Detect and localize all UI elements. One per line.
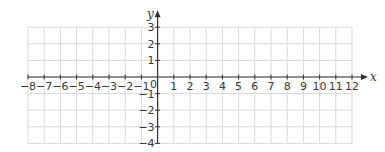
y-tick-label: −2 (138, 104, 154, 117)
x-tick-label: 9 (300, 80, 307, 93)
x-tick-label: 4 (219, 80, 226, 93)
x-axis-label: x (370, 70, 377, 84)
x-tick-label: 2 (187, 80, 194, 93)
x-tick-label: 1 (170, 80, 177, 93)
y-tick-label: 3 (148, 21, 155, 34)
x-tick-label: 5 (235, 80, 242, 93)
x-tick-label: −3 (101, 80, 117, 93)
x-tick-label: 8 (284, 80, 291, 93)
y-tick-label: −3 (138, 121, 154, 134)
x-tick-label: 6 (251, 80, 258, 93)
x-tick-label: −7 (36, 80, 52, 93)
y-tick-label: −4 (138, 137, 154, 150)
x-tick-label: −5 (68, 80, 84, 93)
x-tick-label: 7 (268, 80, 275, 93)
x-tick-label: −8 (20, 80, 36, 93)
x-tick-label: −2 (117, 80, 133, 93)
x-tick-label: 11 (329, 80, 343, 93)
y-tick-label: −1 (138, 88, 154, 101)
y-axis-arrow-icon (155, 10, 161, 17)
coordinate-grid: −8−7−6−5−4−3−2−10123456789101112 −4−3−2−… (0, 0, 385, 152)
y-tick-label: 2 (148, 38, 155, 51)
axes (28, 10, 368, 143)
y-tick-label: 1 (148, 54, 155, 67)
x-tick-label: 3 (203, 80, 210, 93)
y-axis-label: y (146, 7, 154, 21)
x-tick-label: −6 (52, 80, 68, 93)
x-tick-label: 10 (313, 80, 327, 93)
x-tick-label: 12 (345, 80, 359, 93)
x-tick-label: −4 (85, 80, 101, 93)
x-axis-arrow-icon (361, 74, 368, 80)
